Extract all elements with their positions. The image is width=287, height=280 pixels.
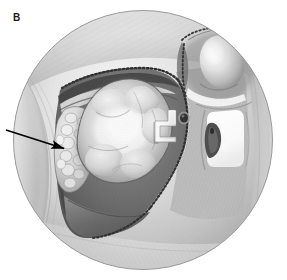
anatomical-illustration	[0, 0, 287, 280]
figure-root: B	[0, 0, 287, 280]
panel-label: B	[13, 13, 20, 23]
